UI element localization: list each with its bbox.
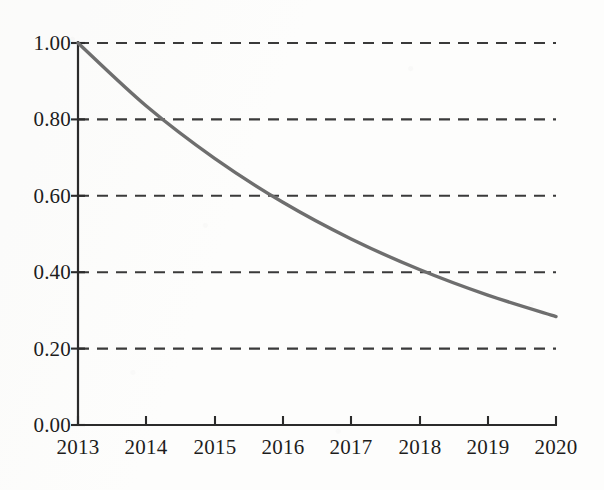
x-tick-label-2013: 2013 [57,437,100,458]
plot-area [0,0,604,490]
y-tick-label-0.20: 0.20 [33,339,71,360]
x-axis-ticks [78,416,556,425]
y-tick-label-0.40: 0.40 [33,262,71,283]
y-tick-label-1.00: 1.00 [33,33,71,54]
x-tick-label-2015: 2015 [194,437,237,458]
y-tick-label-0.80: 0.80 [33,109,71,130]
x-tick-label-2014: 2014 [125,437,168,458]
x-tick-label-2020: 2020 [535,437,578,458]
y-tick-label-0.60: 0.60 [33,186,71,207]
x-tick-label-2016: 2016 [262,437,305,458]
x-tick-label-2017: 2017 [330,437,373,458]
x-tick-label-2018: 2018 [399,437,442,458]
gridlines [78,43,556,349]
chart-figure: 1.00 0.80 0.60 0.40 0.20 0.00 2013 2014 … [0,0,604,490]
x-tick-label-2019: 2019 [467,437,510,458]
decay-curve [78,43,556,317]
y-tick-label-0.00: 0.00 [33,415,71,436]
